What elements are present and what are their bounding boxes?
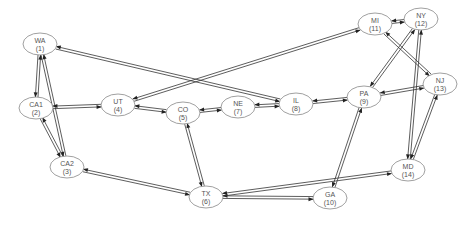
node-ca2: CA2(3) xyxy=(50,156,84,178)
edge-co-to-ne xyxy=(200,110,221,112)
edge-ca2-to-ca1 xyxy=(43,118,63,156)
network-diagram: WA(1)CA1(2)CA2(3)UT(4)CO(5)TX(6)NE(7)IL(… xyxy=(0,0,474,225)
edge-ut-to-mi xyxy=(134,30,360,101)
node-index-label: (6) xyxy=(202,198,211,206)
node-name-label: NE xyxy=(233,100,243,107)
edge-ga-to-tx xyxy=(223,196,313,197)
node-index-label: (4) xyxy=(114,106,123,114)
node-index-label: (1) xyxy=(36,45,45,53)
node-index-label: (3) xyxy=(63,168,72,176)
node-mi: MI(11) xyxy=(358,13,392,35)
node-name-label: MD xyxy=(403,163,414,170)
edge-md-to-ny xyxy=(410,30,421,159)
node-index-label: (10) xyxy=(324,199,336,207)
node-index-label: (13) xyxy=(434,85,446,93)
edge-mi-to-ut xyxy=(133,28,359,99)
node-name-label: NJ xyxy=(436,77,445,84)
edge-tx-to-md xyxy=(223,174,392,197)
edge-wa-to-il xyxy=(56,49,280,102)
node-ga: GA(10) xyxy=(313,187,347,209)
edge-il-to-wa xyxy=(56,46,280,99)
node-name-label: CA2 xyxy=(60,160,74,167)
node-pa: PA(9) xyxy=(347,86,381,108)
edge-pa-to-ny xyxy=(372,30,414,88)
node-index-label: (14) xyxy=(402,171,414,179)
node-wa: WA(1) xyxy=(23,33,57,55)
node-il: IL(8) xyxy=(279,93,313,115)
node-name-label: PA xyxy=(360,90,369,97)
edge-md-to-tx xyxy=(222,171,391,194)
node-ut: UT(4) xyxy=(101,94,135,116)
edge-pa-to-ga xyxy=(332,107,359,187)
edge-ne-to-co xyxy=(200,108,221,110)
edge-ca2-to-tx xyxy=(83,172,190,195)
node-name-label: NY xyxy=(416,12,426,19)
edge-tx-to-ga xyxy=(223,198,313,199)
edge-wa-to-ca1 xyxy=(35,55,38,97)
edge-ny-to-md xyxy=(408,30,419,159)
node-name-label: GA xyxy=(325,191,335,198)
node-index-label: (2) xyxy=(32,109,41,117)
node-name-label: UT xyxy=(113,98,123,105)
node-ca1: CA1(2) xyxy=(19,97,53,119)
edge-ny-to-mi xyxy=(392,20,404,21)
edge-co-to-tx xyxy=(185,124,202,186)
node-name-label: CO xyxy=(178,106,189,113)
edge-tx-to-ca2 xyxy=(83,169,190,192)
edge-ut-to-ca1 xyxy=(53,104,101,106)
node-md: MD(14) xyxy=(391,159,425,181)
node-index-label: (12) xyxy=(415,20,427,28)
node-index-label: (11) xyxy=(369,25,381,33)
node-index-label: (9) xyxy=(360,98,369,106)
node-index-label: (5) xyxy=(179,114,188,122)
node-name-label: IL xyxy=(293,97,299,104)
node-index-label: (8) xyxy=(292,105,301,113)
edge-ca1-to-ut xyxy=(53,107,101,109)
edge-md-to-nj xyxy=(413,95,437,160)
edge-ca1-to-ca2 xyxy=(40,119,60,157)
node-ny: NY(12) xyxy=(404,8,438,30)
node-nj: NJ(13) xyxy=(423,73,457,95)
edge-il-to-ne xyxy=(255,104,279,105)
node-co: CO(5) xyxy=(166,102,200,124)
node-name-label: MI xyxy=(371,17,379,24)
node-index-label: (7) xyxy=(234,108,243,116)
node-ne: NE(7) xyxy=(221,96,255,118)
node-name-label: TX xyxy=(202,190,211,197)
edge-tx-to-co xyxy=(187,123,204,185)
edge-mi-to-ny xyxy=(392,22,404,23)
node-tx: TX(6) xyxy=(189,186,223,208)
edge-ne-to-il xyxy=(255,106,279,107)
nodes-layer: WA(1)CA1(2)CA2(3)UT(4)CO(5)TX(6)NE(7)IL(… xyxy=(19,8,457,209)
node-name-label: WA xyxy=(34,37,45,44)
edge-ca1-to-wa xyxy=(38,55,41,97)
edge-nj-to-md xyxy=(411,94,435,159)
node-name-label: CA1 xyxy=(29,101,43,108)
